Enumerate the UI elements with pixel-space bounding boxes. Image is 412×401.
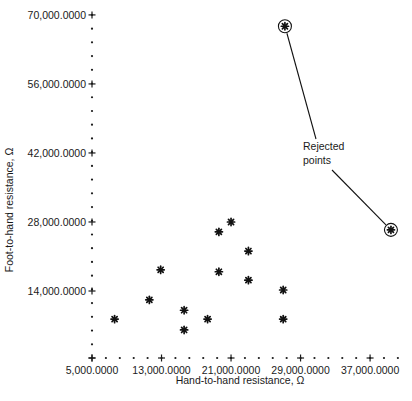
leader-line xyxy=(287,33,316,139)
axis-dot xyxy=(91,28,93,30)
asterisk-marker xyxy=(215,228,222,235)
axis-dot xyxy=(91,302,93,304)
axis-dot xyxy=(91,178,93,180)
axis-dot xyxy=(91,55,93,57)
axis-dot xyxy=(188,357,190,359)
axis-dot xyxy=(286,357,288,359)
axis-dot xyxy=(91,165,93,167)
axis-dot xyxy=(91,96,93,98)
axis-dot xyxy=(91,261,93,263)
y-tick-labels: 14,000.000028,000.000042,000.000056,000.… xyxy=(28,9,87,297)
axis-dot xyxy=(91,247,93,249)
asterisk-marker xyxy=(204,316,211,323)
axis-dot xyxy=(91,233,93,235)
asterisk-marker xyxy=(280,286,287,293)
axis-dot xyxy=(313,357,315,359)
y-axis-title: Foot-to-hand resistance, Ω xyxy=(3,148,15,273)
axis-dot xyxy=(91,192,93,194)
axis-dot xyxy=(91,316,93,318)
axis-dot xyxy=(91,137,93,139)
y-tick-label: 42,000.0000 xyxy=(28,147,87,159)
asterisk-marker xyxy=(111,316,118,323)
asterisk-marker xyxy=(215,268,222,275)
axis-dot xyxy=(202,357,204,359)
axis-dot xyxy=(105,357,107,359)
annotation-line-1: Rejected xyxy=(303,140,345,152)
x-tick-label: 5,000.0000 xyxy=(66,364,119,376)
y-tick xyxy=(89,288,96,295)
asterisk-marker xyxy=(245,247,252,254)
y-axis xyxy=(89,11,96,361)
rejected-points-annotation: Rejected points xyxy=(287,33,386,225)
x-tick xyxy=(367,355,374,362)
rejected-points xyxy=(278,20,397,237)
y-tick-label: 28,000.0000 xyxy=(28,216,87,228)
axis-dot xyxy=(91,110,93,112)
axis-dot xyxy=(383,357,385,359)
axis-dot xyxy=(91,124,93,126)
axis-dot xyxy=(91,69,93,71)
asterisk-marker xyxy=(227,218,234,225)
x-axis xyxy=(89,355,399,362)
x-tick xyxy=(158,355,165,362)
y-tick-label: 56,000.0000 xyxy=(28,78,87,90)
x-tick-label: 37,000.0000 xyxy=(341,364,400,376)
axis-dot xyxy=(216,357,218,359)
axis-dot xyxy=(91,41,93,43)
asterisk-marker xyxy=(157,266,164,273)
axis-dot xyxy=(91,275,93,277)
axis-dot xyxy=(272,357,274,359)
axis-dot xyxy=(133,357,135,359)
x-tick xyxy=(89,355,96,362)
axis-dot xyxy=(147,357,149,359)
axis-dot xyxy=(341,357,343,359)
y-tick xyxy=(89,149,96,156)
y-tick xyxy=(89,11,96,18)
asterisk-marker xyxy=(245,277,252,284)
x-tick xyxy=(297,355,304,362)
axis-dot xyxy=(355,357,357,359)
y-tick xyxy=(89,80,96,87)
y-tick-label: 14,000.0000 xyxy=(28,285,87,297)
y-tick-label: 70,000.0000 xyxy=(28,9,87,21)
asterisk-marker xyxy=(146,296,153,303)
asterisk-marker xyxy=(181,326,188,333)
axis-dot xyxy=(119,357,121,359)
axis-dot xyxy=(327,357,329,359)
asterisk-marker xyxy=(280,316,287,323)
annotation-line-2: points xyxy=(303,154,331,166)
data-points xyxy=(111,218,287,333)
leader-line xyxy=(332,170,386,225)
y-tick xyxy=(89,218,96,225)
axis-dot xyxy=(174,357,176,359)
asterisk-marker xyxy=(387,226,394,233)
asterisk-marker xyxy=(181,307,188,314)
asterisk-marker xyxy=(281,23,288,30)
x-axis-title: Hand-to-hand resistance, Ω xyxy=(176,374,305,386)
axis-dot xyxy=(91,206,93,208)
axis-dot xyxy=(244,357,246,359)
x-tick xyxy=(228,355,235,362)
axis-dot xyxy=(91,343,93,345)
axis-dot xyxy=(397,357,399,359)
scatter-chart: 14,000.000028,000.000042,000.000056,000.… xyxy=(0,0,412,401)
axis-dot xyxy=(91,329,93,331)
axis-dot xyxy=(258,357,260,359)
